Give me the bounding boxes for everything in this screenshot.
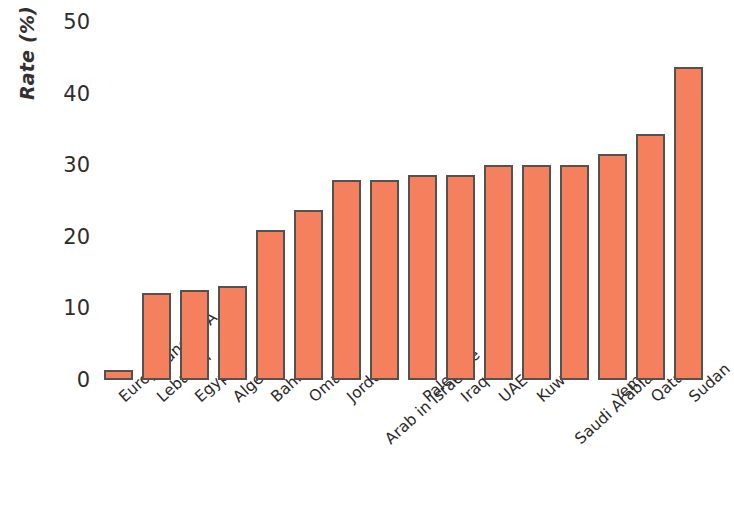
bar: [522, 165, 551, 380]
bar: [370, 180, 399, 380]
bar: [294, 210, 323, 380]
bar: [408, 175, 437, 380]
bar: [218, 286, 247, 380]
bar: [560, 165, 589, 380]
bar: [636, 134, 665, 380]
bar: [180, 290, 209, 380]
bar: [446, 175, 475, 380]
bar: [256, 230, 285, 380]
bar: [332, 180, 361, 380]
bar: [598, 154, 627, 380]
bar: [104, 370, 133, 380]
bar: [142, 293, 171, 380]
bar: [674, 67, 703, 380]
bar: [484, 165, 513, 380]
